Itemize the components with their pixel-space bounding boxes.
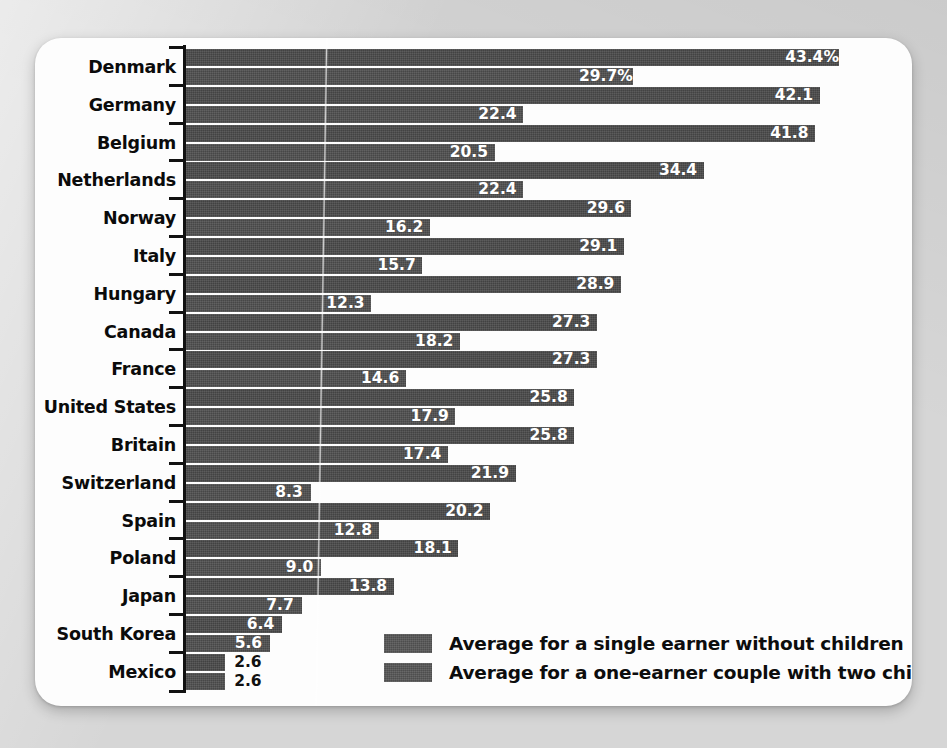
bar-one-earner-couple bbox=[186, 144, 495, 161]
bar-single-earner bbox=[186, 314, 597, 331]
bar-single-earner bbox=[186, 427, 574, 444]
bar-value: 15.7 bbox=[377, 257, 415, 274]
chart-legend: Average for a single earner without chil… bbox=[384, 629, 912, 687]
bar-chart: Denmark43.4%29.7%Germany42.122.4Belgium4… bbox=[35, 38, 912, 706]
category-label-poland: Poland bbox=[35, 548, 176, 568]
category-label-denmark: Denmark bbox=[35, 57, 176, 77]
chart-row: Switzerland21.98.3 bbox=[35, 465, 912, 501]
bar-single-earner bbox=[186, 162, 704, 179]
legend-item-single-earner: Average for a single earner without chil… bbox=[384, 629, 912, 658]
axis-tick bbox=[169, 500, 186, 503]
bar-one-earner-couple bbox=[186, 181, 523, 198]
bar-single-earner bbox=[186, 389, 574, 406]
bar-single-earner bbox=[186, 87, 820, 104]
category-label-switzerland: Switzerland bbox=[35, 473, 176, 493]
bar-one-earner-couple bbox=[186, 106, 523, 123]
bar-single-earner bbox=[186, 125, 815, 142]
bar-value: 16.2 bbox=[385, 219, 423, 236]
axis-tick bbox=[169, 462, 186, 465]
bar-value: 34.4 bbox=[659, 162, 697, 179]
bar-single-earner bbox=[186, 351, 597, 368]
bar-value: 29.1 bbox=[579, 238, 617, 255]
axis-tick bbox=[169, 651, 186, 654]
chart-row: Japan13.87.7 bbox=[35, 578, 912, 614]
bar-value: 21.9 bbox=[471, 465, 509, 482]
axis-tick bbox=[169, 348, 186, 351]
bar-value: 42.1 bbox=[775, 87, 813, 104]
bar-value: 25.8 bbox=[529, 389, 567, 406]
chart-row: Belgium41.820.5 bbox=[35, 125, 912, 161]
legend-item-one-earner-couple: Average for a one-earner couple with two… bbox=[384, 658, 912, 687]
chart-row: Spain20.212.8 bbox=[35, 503, 912, 539]
axis-tick bbox=[169, 537, 186, 540]
bar-one-earner-couple bbox=[186, 673, 225, 690]
bar-single-earner bbox=[186, 238, 624, 255]
bar-value: 29.7% bbox=[579, 68, 633, 85]
category-label-france: France bbox=[35, 359, 176, 379]
category-label-belgium: Belgium bbox=[35, 133, 176, 153]
bar-value: 14.6 bbox=[361, 370, 399, 387]
legend-swatch-single-earner bbox=[384, 634, 432, 653]
axis-tick bbox=[169, 122, 186, 125]
bar-value: 6.4 bbox=[247, 616, 274, 633]
chart-row: Poland18.19.0 bbox=[35, 540, 912, 576]
bar-value: 12.8 bbox=[334, 522, 372, 539]
category-label-canada: Canada bbox=[35, 322, 176, 342]
axis-tick bbox=[169, 159, 186, 162]
axis-tick bbox=[169, 46, 186, 49]
chart-row: Denmark43.4%29.7% bbox=[35, 49, 912, 85]
chart-row: Italy29.115.7 bbox=[35, 238, 912, 274]
bar-single-earner bbox=[186, 49, 839, 66]
bar-single-earner bbox=[186, 200, 631, 217]
chart-row: Hungary28.912.3 bbox=[35, 276, 912, 312]
category-label-united-states: United States bbox=[35, 397, 176, 417]
bar-single-earner bbox=[186, 654, 225, 671]
bar-value: 22.4 bbox=[478, 181, 516, 198]
bar-value: 22.4 bbox=[478, 106, 516, 123]
bar-value: 20.5 bbox=[450, 144, 488, 161]
chart-row: Germany42.122.4 bbox=[35, 87, 912, 123]
category-label-germany: Germany bbox=[35, 95, 176, 115]
axis-tick bbox=[169, 84, 186, 87]
bar-value: 12.3 bbox=[326, 295, 364, 312]
bar-single-earner bbox=[186, 276, 621, 293]
axis-tick bbox=[169, 613, 186, 616]
chart-row: Norway29.616.2 bbox=[35, 200, 912, 236]
bar-value: 18.1 bbox=[414, 540, 452, 557]
bar-single-earner bbox=[186, 465, 516, 482]
bar-value: 29.6 bbox=[587, 200, 625, 217]
chart-row: United States25.817.9 bbox=[35, 389, 912, 425]
axis-tick bbox=[169, 235, 186, 238]
bar-value: 13.8 bbox=[349, 578, 387, 595]
bar-value: 18.2 bbox=[415, 333, 453, 350]
bar-value: 27.3 bbox=[552, 314, 590, 331]
bar-value: 5.6 bbox=[235, 635, 262, 652]
bar-value: 25.8 bbox=[529, 427, 567, 444]
category-label-hungary: Hungary bbox=[35, 284, 176, 304]
axis-tick bbox=[169, 386, 186, 389]
axis-tick bbox=[169, 575, 186, 578]
bar-value: 28.9 bbox=[576, 276, 614, 293]
bar-value: 17.9 bbox=[411, 408, 449, 425]
axis-tick bbox=[169, 424, 186, 427]
bar-one-earner-couple bbox=[186, 68, 633, 85]
category-label-spain: Spain bbox=[35, 511, 176, 531]
category-label-japan: Japan bbox=[35, 586, 176, 606]
bar-value: 9.0 bbox=[286, 559, 313, 576]
chart-row: France27.314.6 bbox=[35, 351, 912, 387]
y-axis-line bbox=[183, 45, 186, 691]
category-label-italy: Italy bbox=[35, 246, 176, 266]
bar-value: 7.7 bbox=[266, 597, 293, 614]
bar-value: 27.3 bbox=[552, 351, 590, 368]
chart-row: Canada27.318.2 bbox=[35, 314, 912, 350]
chart-row: Britain25.817.4 bbox=[35, 427, 912, 463]
legend-swatch-one-earner-couple bbox=[384, 663, 432, 682]
bar-value: 17.4 bbox=[403, 446, 441, 463]
category-label-norway: Norway bbox=[35, 208, 176, 228]
bar-value: 20.2 bbox=[445, 503, 483, 520]
axis-tick bbox=[169, 197, 186, 200]
bar-value: 41.8 bbox=[770, 125, 808, 142]
bar-value: 43.4% bbox=[785, 49, 839, 66]
bar-value: 8.3 bbox=[275, 484, 302, 501]
bar-value: 2.6 bbox=[234, 654, 261, 671]
